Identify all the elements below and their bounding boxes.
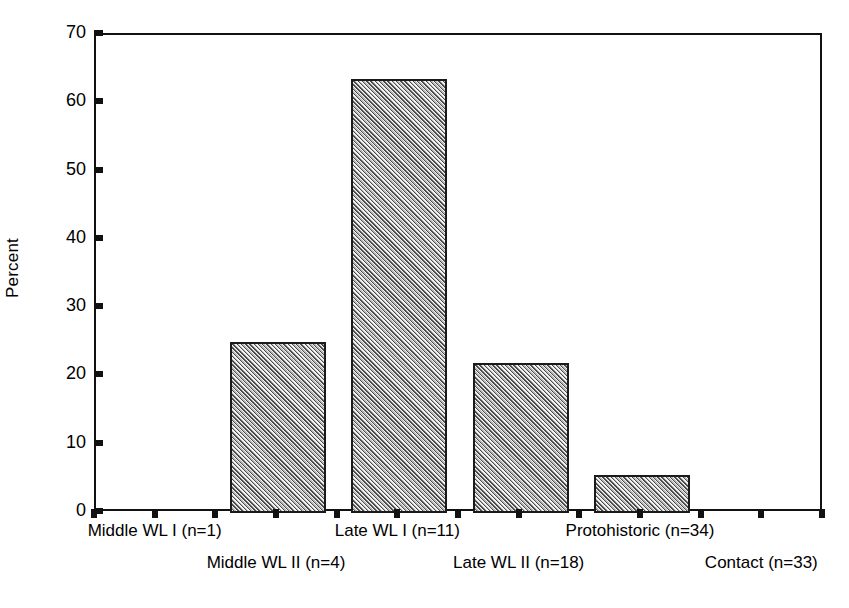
x-tick-mark xyxy=(819,509,825,518)
plot-area xyxy=(94,33,822,511)
y-tick-label: 60 xyxy=(40,89,86,111)
x-axis-label: Middle WL I (n=1) xyxy=(88,520,222,541)
x-tick-mark xyxy=(516,509,522,518)
x-tick-mark xyxy=(91,509,97,518)
bar xyxy=(230,342,326,513)
x-tick-mark xyxy=(637,509,643,518)
y-tick-label: 30 xyxy=(40,294,86,316)
chart-page: Percent 706050403020100 Middle WL I (n=1… xyxy=(0,0,849,608)
bar xyxy=(594,475,690,513)
x-tick-mark xyxy=(273,509,279,518)
x-axis-label: Late WL II (n=18) xyxy=(453,552,584,573)
x-tick-mark xyxy=(758,509,764,518)
x-tick-mark xyxy=(698,509,704,518)
y-tick-label: 0 xyxy=(40,499,86,521)
x-tick-mark xyxy=(152,509,158,518)
bar xyxy=(351,79,447,513)
x-tick-mark xyxy=(212,509,218,518)
y-axis-title: Percent xyxy=(3,29,23,507)
x-axis-label: Late WL I (n=11) xyxy=(335,520,460,541)
bar xyxy=(473,363,569,513)
y-tick-label: 40 xyxy=(40,226,86,248)
x-axis-label: Contact (n=33) xyxy=(705,552,818,573)
x-axis-label: Middle WL II (n=4) xyxy=(207,552,346,573)
x-axis-label: Protohistoric (n=34) xyxy=(566,520,715,541)
x-tick-mark xyxy=(576,509,582,518)
y-tick-label: 10 xyxy=(40,431,86,453)
y-tick-label: 20 xyxy=(40,362,86,384)
x-tick-mark xyxy=(334,509,340,518)
y-tick-label: 50 xyxy=(40,158,86,180)
x-tick-mark xyxy=(455,509,461,518)
y-tick-label: 70 xyxy=(40,21,86,43)
x-tick-mark xyxy=(394,509,400,518)
